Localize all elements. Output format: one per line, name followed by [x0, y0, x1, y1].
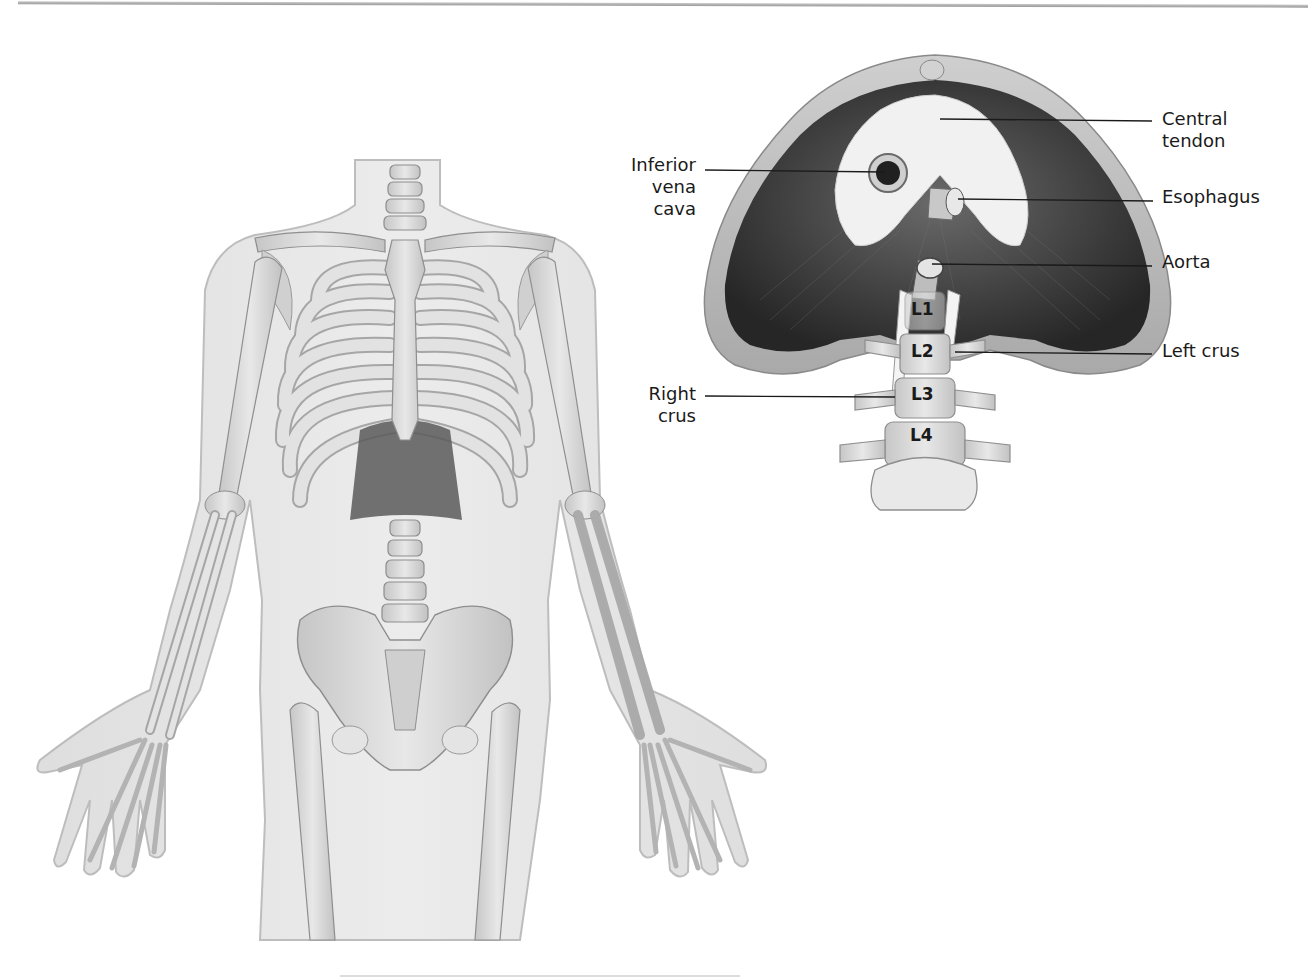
label-line: tendon [1162, 130, 1228, 152]
label-line: Inferior [600, 154, 696, 176]
inferior-vena-cava-opening [869, 154, 907, 192]
label-left-crus: Left crus [1162, 340, 1240, 362]
label-line: Left crus [1162, 340, 1240, 362]
label-line: vena [600, 176, 696, 198]
vertebra-label-l2: L2 [911, 341, 934, 361]
label-line: Aorta [1162, 251, 1211, 273]
diaphragm-figure [704, 55, 1170, 510]
bottom-border-rule [340, 975, 740, 977]
vertebra-label-l1: L1 [911, 299, 934, 319]
label-central-tendon: Central tendon [1162, 108, 1228, 152]
label-line: crus [600, 405, 696, 427]
vertebra-label-l4: L4 [910, 425, 933, 445]
label-aorta: Aorta [1162, 251, 1211, 273]
vertebral-body-section [871, 458, 977, 511]
body-skeleton-figure [37, 160, 766, 940]
esophagus-tube [928, 188, 964, 220]
label-esophagus: Esophagus [1162, 186, 1260, 208]
label-right-crus: Right crus [600, 383, 696, 427]
label-line: cava [600, 198, 696, 220]
vertebra-label-l3: L3 [911, 384, 934, 404]
label-line: Central [1162, 108, 1228, 130]
anatomy-illustration [0, 0, 1312, 978]
label-line: Esophagus [1162, 186, 1260, 208]
label-inferior-vena-cava: Inferior vena cava [600, 154, 696, 220]
label-line: Right [600, 383, 696, 405]
